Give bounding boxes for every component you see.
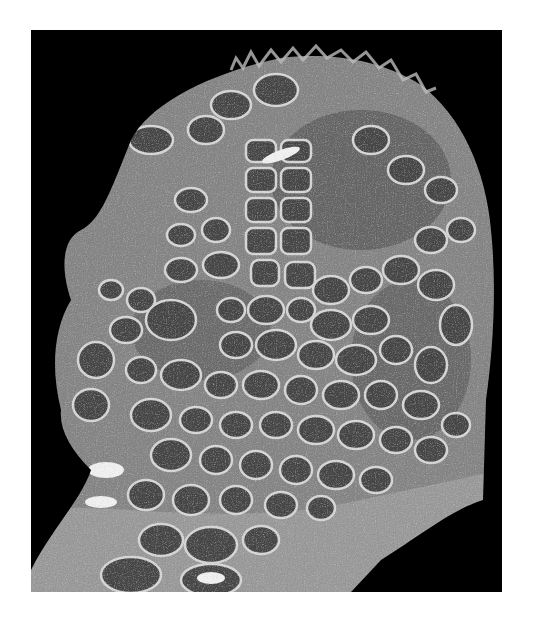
micrograph-panel bbox=[31, 30, 502, 592]
tissue-section-image bbox=[31, 30, 502, 592]
